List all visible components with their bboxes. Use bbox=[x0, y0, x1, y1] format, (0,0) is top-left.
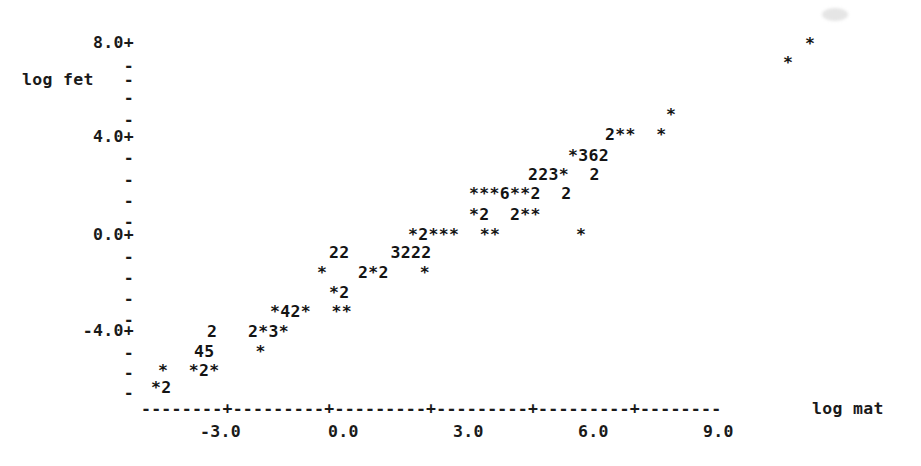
data-row: 45 * bbox=[194, 344, 266, 361]
y-minor-tick-7: - bbox=[48, 193, 134, 210]
y-minor-tick-11: - bbox=[48, 291, 134, 308]
data-row: ***6**2 2 bbox=[469, 186, 572, 203]
y-tick-label-4: 4.0+ bbox=[48, 129, 134, 146]
data-row: *2*** ** bbox=[408, 227, 500, 244]
y-tick-label-neg4: -4.0+ bbox=[48, 323, 134, 340]
x-tick-label-6: 6.0 bbox=[578, 424, 609, 441]
y-minor-tick-5: - bbox=[48, 150, 134, 167]
data-row: * bbox=[576, 227, 586, 244]
y-minor-tick-3: - bbox=[48, 90, 134, 107]
y-minor-tick-10: - bbox=[48, 270, 134, 287]
y-minor-tick-13: - bbox=[48, 345, 134, 362]
data-row: * 2*2 * bbox=[317, 265, 430, 282]
data-row: * bbox=[805, 36, 815, 53]
data-row: 2 2*3* bbox=[207, 324, 289, 341]
ascii-scatter-plot: 8.0+ - log fet - - - 4.0+ - - - - 0.0+ -… bbox=[0, 0, 921, 466]
scan-artifact bbox=[822, 8, 848, 21]
data-row: *362 bbox=[568, 148, 609, 165]
data-row: *2 bbox=[329, 285, 350, 302]
y-minor-tick-2: - bbox=[48, 72, 134, 89]
x-tick-label-9: 9.0 bbox=[703, 424, 734, 441]
data-row: *42* ** bbox=[270, 304, 352, 321]
x-tick-label-neg3: -3.0 bbox=[200, 424, 241, 441]
x-tick-label-3: 3.0 bbox=[453, 424, 484, 441]
y-tick-label-8: 8.0+ bbox=[48, 35, 134, 52]
data-row: * bbox=[666, 107, 676, 124]
data-row: *2 2** bbox=[469, 207, 541, 224]
x-tick-label-0: 0.0 bbox=[328, 424, 359, 441]
x-axis-line: --------+---------+---------+---------+-… bbox=[141, 401, 721, 418]
y-minor-tick-6: - bbox=[48, 172, 134, 189]
y-minor-tick-14: - bbox=[48, 365, 134, 382]
y-minor-tick-9: - bbox=[48, 249, 134, 266]
data-row: * bbox=[783, 55, 793, 72]
x-axis-title: log mat bbox=[812, 401, 884, 418]
y-minor-tick-15: - bbox=[48, 385, 134, 402]
y-tick-label-0: 0.0+ bbox=[48, 227, 134, 244]
data-row: *2 bbox=[151, 380, 172, 397]
data-row: 223* 2 bbox=[528, 167, 600, 184]
data-row: 2** * bbox=[605, 127, 667, 144]
data-row: 22 3222 bbox=[329, 245, 432, 262]
